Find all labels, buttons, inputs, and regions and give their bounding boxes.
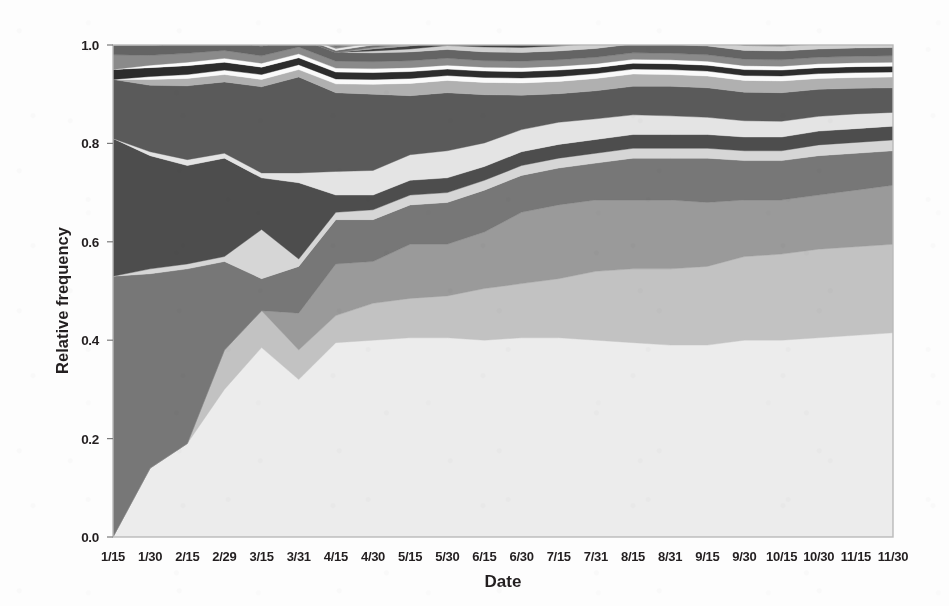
x-tick-label: 11/30 [878,549,908,564]
x-tick-label: 8/15 [621,549,645,564]
y-tick-label: 0.6 [0,234,99,249]
y-tick-label: 0.2 [0,431,99,446]
x-tick-label: 4/15 [324,549,348,564]
area-bands-group [113,23,893,537]
x-tick-label: 8/31 [658,549,682,564]
x-tick-label: 7/15 [547,549,571,564]
x-tick-label: 5/15 [398,549,422,564]
x-tick-label: 5/30 [435,549,459,564]
x-tick-label: 6/15 [472,549,496,564]
y-axis-label: Relative frequency [53,191,72,411]
x-tick-label: 9/30 [732,549,756,564]
x-tick-label: 11/15 [841,549,871,564]
x-tick-label: 10/30 [803,549,834,564]
x-tick-label: 3/31 [287,549,311,564]
x-tick-label: 2/29 [212,549,236,564]
x-tick-label: 6/30 [510,549,534,564]
x-tick-label: 3/15 [250,549,274,564]
area-band [113,24,893,46]
x-tick-label: 10/15 [766,549,797,564]
y-tick-label: 0.0 [0,530,99,545]
area-band [113,23,893,45]
y-tick-label: 0.8 [0,136,99,151]
figure-canvas: 1.00.80.60.40.20.01/151/302/152/293/153/… [0,0,949,606]
x-tick-label: 2/15 [175,549,199,564]
stacked-area-chart [0,0,949,606]
y-tick-label: 0.4 [0,333,99,348]
y-tick-marks [107,45,113,537]
x-axis-label: Date [113,572,893,592]
x-tick-label: 9/15 [695,549,719,564]
x-tick-label: 1/30 [138,549,162,564]
x-tick-label: 7/31 [584,549,608,564]
x-tick-label: 1/15 [101,549,125,564]
x-tick-label: 4/30 [361,549,385,564]
y-tick-label: 1.0 [0,38,99,53]
